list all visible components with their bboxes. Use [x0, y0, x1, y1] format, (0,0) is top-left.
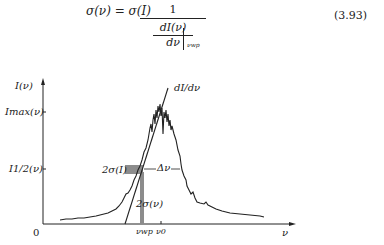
x-tick-nuwp: νwp	[136, 227, 153, 236]
x-axis-arrow-icon	[289, 222, 296, 226]
y-axis-arrow-icon	[41, 78, 45, 85]
tangent-label: dI/dν	[174, 82, 200, 93]
delta-nu-label: Δν	[156, 162, 171, 173]
y-tick-imax: Imax(ν)	[5, 106, 44, 117]
figure-plot	[0, 0, 384, 245]
sigma-I-label: 2σ(I)	[102, 164, 127, 175]
y-tick-ihalf: I1/2(ν)	[9, 163, 43, 174]
y-axis-label: I(ν)	[15, 80, 33, 91]
origin-label: 0	[33, 227, 39, 238]
x-tick-nu0: ν0	[156, 227, 166, 236]
sigma-nu-label: 2σ(ν)	[136, 198, 163, 209]
x-axis-label: ν	[282, 227, 288, 238]
